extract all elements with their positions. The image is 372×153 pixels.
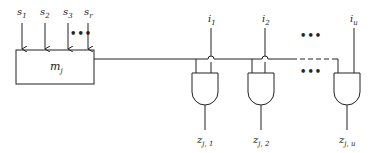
input-label-s2: s2 (40, 6, 50, 20)
gate-ellipsis: ••• (300, 66, 322, 77)
input-label-sr: sr (84, 6, 93, 20)
and-gate-u (334, 73, 360, 105)
output-label-z2: zj, 2 (253, 134, 269, 148)
gate-input-label-i2: i2 (262, 13, 270, 27)
module-label: mj (50, 60, 63, 75)
and-gate-1 (192, 73, 218, 105)
input-ellipsis: ••• (70, 28, 92, 39)
output-label-z1: zj, 1 (197, 134, 213, 148)
input-label-s3: s3 (63, 6, 73, 20)
gate-input-label-i1: i1 (208, 13, 216, 27)
input-label-s1: s1 (17, 6, 27, 20)
bus-line (94, 56, 292, 59)
output-label-zu: zj, u (339, 134, 355, 148)
and-gate-2 (248, 73, 274, 105)
gate-input-label-iu: iu (350, 13, 358, 27)
top-ellipsis: ••• (300, 30, 322, 41)
